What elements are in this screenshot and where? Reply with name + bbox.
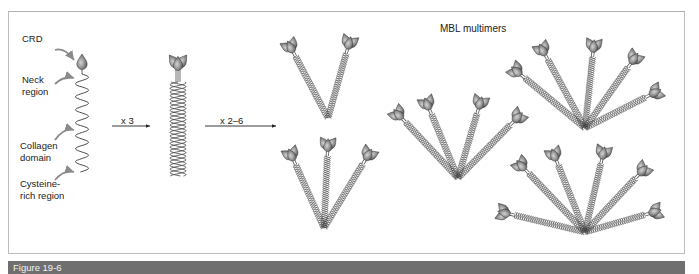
label-pointers <box>55 49 74 180</box>
multimers-title: MBL multimers <box>440 23 506 34</box>
mbl-monomer <box>76 54 89 172</box>
monomer-label: region <box>22 86 48 97</box>
arrow-label-x3: x 3 <box>121 115 134 126</box>
monomer-label: rich region <box>20 190 64 201</box>
monomer-label: Neck <box>22 74 44 85</box>
monomer-label: domain <box>20 152 51 163</box>
pointer-arrow <box>55 49 74 60</box>
pointer-arrow <box>55 77 74 84</box>
caption-bar: Figure 19-6 <box>8 261 685 274</box>
mbl-diagram <box>0 0 699 274</box>
mbl-dimer <box>278 32 361 119</box>
mbl-hexamer-upper <box>505 36 666 131</box>
pointer-arrow <box>55 129 74 140</box>
monomer-label: CRD <box>22 33 43 44</box>
mbl-trimer-bouquet <box>279 135 381 230</box>
molecule-structures <box>76 32 667 235</box>
mbl-hexamer-lower <box>493 142 666 235</box>
monomer-label: Collagen <box>20 140 58 151</box>
figure-caption: Figure 19-6 <box>13 261 62 274</box>
mbl-trimer <box>166 52 191 176</box>
arrow-label-x2-6: x 2–6 <box>220 115 243 126</box>
monomer-label: Cysteine- <box>20 178 60 189</box>
mbl-tetramer <box>386 92 529 180</box>
